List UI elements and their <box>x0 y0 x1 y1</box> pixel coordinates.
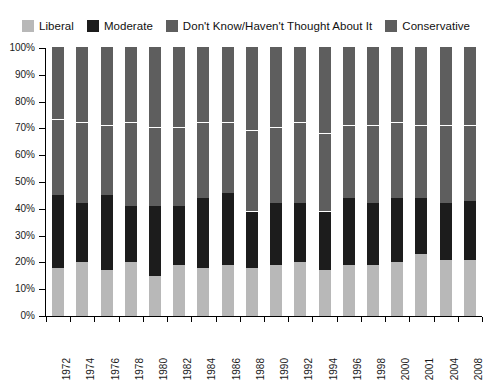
bar-segment[interactable] <box>464 201 476 260</box>
bar-segment[interactable] <box>149 128 161 206</box>
bar-segment[interactable] <box>246 131 258 211</box>
bar-segment[interactable] <box>367 126 379 204</box>
bar-segment[interactable] <box>101 126 113 196</box>
bar-segment[interactable] <box>270 128 282 203</box>
x-axis-tick-label: 1994 <box>329 358 339 380</box>
x-axis-tick-mark <box>458 317 459 322</box>
bar-column[interactable] <box>101 48 113 316</box>
bar-segment[interactable] <box>391 198 403 262</box>
bar-column[interactable] <box>222 48 234 316</box>
bar-segment[interactable] <box>197 47 209 123</box>
bar-segment[interactable] <box>52 268 64 316</box>
bar-segment[interactable] <box>415 198 427 254</box>
x-axis-tick-label: 1996 <box>353 358 363 380</box>
bar-segment[interactable] <box>125 123 137 206</box>
bar-segment[interactable] <box>343 265 355 316</box>
bar-segment[interactable] <box>319 270 331 316</box>
bar-segment[interactable] <box>294 47 306 123</box>
x-axis-tick-mark <box>337 317 338 322</box>
bar-segment[interactable] <box>367 265 379 316</box>
bar-segment[interactable] <box>173 47 185 128</box>
bar-segment[interactable] <box>270 47 282 128</box>
y-axis-tick-label: 50% <box>15 177 35 187</box>
bar-segment[interactable] <box>125 262 137 316</box>
bar-column[interactable] <box>391 48 403 316</box>
bar-segment[interactable] <box>464 47 476 126</box>
bar-column[interactable] <box>125 48 137 316</box>
bar-column[interactable] <box>367 48 379 316</box>
bar-column[interactable] <box>440 48 452 316</box>
bar-segment[interactable] <box>391 47 403 123</box>
bar-segment[interactable] <box>294 123 306 203</box>
bar-segment[interactable] <box>197 198 209 268</box>
bar-segment[interactable] <box>343 47 355 126</box>
bar-segment[interactable] <box>125 206 137 262</box>
bar-column[interactable] <box>149 48 161 316</box>
bar-segment[interactable] <box>415 47 427 126</box>
bar-segment[interactable] <box>149 206 161 276</box>
bar-segment[interactable] <box>76 47 88 123</box>
bar-segment[interactable] <box>149 47 161 128</box>
bar-segment[interactable] <box>101 195 113 270</box>
bar-column[interactable] <box>173 48 185 316</box>
bar-segment[interactable] <box>464 126 476 201</box>
bar-segment[interactable] <box>270 265 282 316</box>
bar-segment[interactable] <box>367 47 379 126</box>
bar-segment[interactable] <box>415 126 427 198</box>
bar-segment[interactable] <box>319 212 331 271</box>
bar-segment[interactable] <box>440 203 452 259</box>
x-axis-tick-mark <box>361 317 362 322</box>
bar-segment[interactable] <box>294 203 306 262</box>
bar-segment[interactable] <box>173 128 185 206</box>
bar-segment[interactable] <box>149 276 161 316</box>
bar-segment[interactable] <box>440 126 452 204</box>
bar-segment[interactable] <box>52 47 64 120</box>
bar-segment[interactable] <box>125 47 137 123</box>
bar-segment[interactable] <box>76 262 88 316</box>
bar-column[interactable] <box>246 48 258 316</box>
bar-segment[interactable] <box>222 265 234 316</box>
bar-segment[interactable] <box>246 47 258 131</box>
bar-segment[interactable] <box>222 193 234 265</box>
bar-segment[interactable] <box>391 262 403 316</box>
bar-column[interactable] <box>52 48 64 316</box>
bar-column[interactable] <box>319 48 331 316</box>
bar-segment[interactable] <box>294 262 306 316</box>
bar-segment[interactable] <box>415 254 427 316</box>
bar-segment[interactable] <box>367 203 379 265</box>
bar-segment[interactable] <box>246 268 258 316</box>
bar-column[interactable] <box>464 48 476 316</box>
bar-segment[interactable] <box>222 47 234 123</box>
bar-segment[interactable] <box>391 123 403 198</box>
bar-segment[interactable] <box>52 120 64 195</box>
bar-column[interactable] <box>343 48 355 316</box>
bar-segment[interactable] <box>319 47 331 134</box>
bar-column[interactable] <box>197 48 209 316</box>
bar-segment[interactable] <box>76 203 88 262</box>
bar-segment[interactable] <box>222 123 234 193</box>
bar-segment[interactable] <box>197 268 209 316</box>
bar-segment[interactable] <box>52 195 64 267</box>
bar-segment[interactable] <box>197 123 209 198</box>
bar-segment[interactable] <box>343 126 355 198</box>
bar-segment[interactable] <box>101 270 113 316</box>
bar-segment[interactable] <box>173 206 185 265</box>
bar-segment[interactable] <box>246 212 258 268</box>
bar-segment[interactable] <box>440 47 452 126</box>
bar-series-container <box>46 48 482 316</box>
bar-segment[interactable] <box>76 123 88 203</box>
bar-column[interactable] <box>415 48 427 316</box>
bar-column[interactable] <box>294 48 306 316</box>
x-axis-tick-label: 2000 <box>401 358 411 380</box>
bar-segment[interactable] <box>343 198 355 265</box>
bar-segment[interactable] <box>101 47 113 126</box>
bar-segment[interactable] <box>173 265 185 316</box>
bar-segment[interactable] <box>270 203 282 265</box>
bar-column[interactable] <box>76 48 88 316</box>
x-axis-tick-mark <box>409 317 410 322</box>
bar-column[interactable] <box>270 48 282 316</box>
bar-segment[interactable] <box>440 260 452 316</box>
bar-segment[interactable] <box>319 134 331 212</box>
bar-segment[interactable] <box>464 260 476 316</box>
x-axis-tick-mark <box>119 317 120 322</box>
